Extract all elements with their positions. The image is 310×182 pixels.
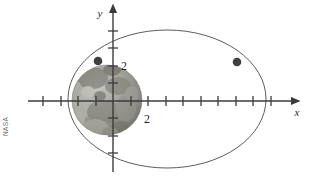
orbit-diagram-figure: y x 2 2 NASA — [0, 0, 310, 182]
y-axis-label: y — [97, 7, 103, 19]
satellite-point-right — [233, 58, 242, 67]
satellite-point-left — [94, 57, 103, 66]
x-tick-label-2: 2 — [144, 112, 150, 126]
x-axis-label: x — [294, 106, 300, 118]
nasa-credit-watermark: NASA — [2, 92, 9, 136]
y-tick-label-2: 2 — [121, 59, 127, 73]
coordinate-plane-svg: y x 2 2 — [0, 0, 310, 182]
